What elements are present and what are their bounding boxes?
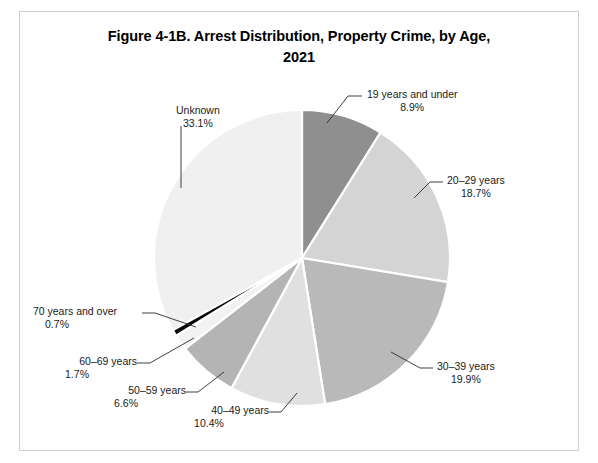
slice-value: 8.9% xyxy=(367,101,457,114)
slice-label: 20–29 years xyxy=(447,174,505,186)
slice-value: 10.4% xyxy=(149,417,269,430)
slice-label: 70 years and over xyxy=(33,305,117,317)
pie-slice-3 xyxy=(302,258,448,404)
figure-page: Figure 4-1B. Arrest Distribution, Proper… xyxy=(0,0,598,463)
slice-callout-1: 19 years and under8.9% xyxy=(367,88,457,114)
slice-label: 60–69 years xyxy=(79,355,137,367)
slice-value: 1.7% xyxy=(17,368,137,381)
slice-value: 0.7% xyxy=(0,318,117,331)
slice-value: 18.7% xyxy=(447,187,505,200)
slice-value: 19.9% xyxy=(437,373,495,386)
slice-callout-2: 20–29 years18.7% xyxy=(447,174,505,200)
slice-callout-5: 50–59 years6.6% xyxy=(66,384,186,410)
slice-callout-8: Unknown33.1% xyxy=(176,104,220,130)
slice-callout-3: 30–39 years19.9% xyxy=(437,360,495,386)
slice-value: 6.6% xyxy=(66,397,186,410)
slice-label: 30–39 years xyxy=(437,360,495,372)
slice-label: 19 years and under xyxy=(367,88,457,100)
pie-slice-group xyxy=(154,110,450,406)
slice-callout-6: 60–69 years1.7% xyxy=(17,355,137,381)
slice-label: 50–59 years xyxy=(128,384,186,396)
slice-callout-7: 70 years and over0.7% xyxy=(0,305,117,331)
slice-label: Unknown xyxy=(176,104,220,116)
slice-value: 33.1% xyxy=(176,117,220,130)
slice-label: 40–49 years xyxy=(211,404,269,416)
